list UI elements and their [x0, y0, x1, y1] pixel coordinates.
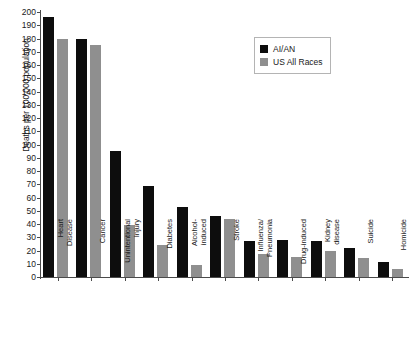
x-axis-tick-label-line: Unintentional: [123, 219, 132, 263]
y-axis-tick-label: 70: [0, 179, 40, 189]
x-axis-tick-label-line: Pneumonia: [266, 219, 275, 283]
x-axis-tick-label-line: Drug-induced: [299, 219, 308, 264]
y-axis-tick-label: 0: [0, 272, 40, 282]
x-axis-tick-label-line: disease: [333, 219, 342, 283]
x-axis-tick-mark: [292, 278, 293, 281]
bar: [244, 241, 255, 277]
y-axis-tick-label: 140: [0, 87, 40, 97]
bar: [76, 39, 87, 278]
x-axis-tick-label: Diabetes: [166, 219, 175, 283]
y-axis-tick-mark: [37, 39, 40, 40]
legend-entry: AI/AN: [260, 43, 323, 55]
y-axis-tick-mark: [37, 184, 40, 185]
x-axis-tick-label-line: Kidney: [323, 219, 332, 242]
y-axis-tick-label: 90: [0, 153, 40, 163]
plot-area: [41, 12, 409, 277]
x-axis-tick-label-line: Injury: [132, 219, 141, 283]
y-axis-tick-mark: [37, 12, 40, 13]
y-axis-tick-mark: [37, 224, 40, 225]
y-axis-tick-mark: [37, 92, 40, 93]
x-axis-tick-label: Drug-induced: [300, 219, 309, 283]
x-axis-tick-label-line: Suicide: [366, 219, 375, 244]
x-axis-tick-label: Suicide: [367, 219, 376, 283]
y-axis-tick-label: 150: [0, 73, 40, 83]
bar: [277, 240, 288, 277]
y-axis-tick-label: 10: [0, 259, 40, 269]
y-axis-tick-mark: [37, 277, 40, 278]
y-axis-tick-mark: [37, 65, 40, 66]
legend-entry-label: US All Races: [273, 58, 323, 67]
y-axis-tick-mark: [37, 118, 40, 119]
legend-color-swatch: [260, 58, 268, 66]
y-axis-tick-label: 160: [0, 60, 40, 70]
bar: [110, 151, 121, 277]
y-axis-tick-mark: [37, 171, 40, 172]
y-axis-tick-label: 120: [0, 113, 40, 123]
y-axis-tick-label: 170: [0, 47, 40, 57]
y-axis-tick-mark: [37, 131, 40, 132]
y-axis-tick-label: 100: [0, 140, 40, 150]
bar: [143, 186, 154, 277]
y-axis-tick-mark: [37, 145, 40, 146]
bar: [177, 207, 188, 277]
x-axis-tick-label-line: Stroke: [232, 219, 241, 241]
legend-entry-label: AI/AN: [273, 45, 295, 54]
bar: [43, 17, 54, 277]
x-axis-tick-label-line: Homicide: [399, 219, 408, 250]
x-axis-tick-label: Cancer: [99, 219, 108, 283]
x-axis-tick-label: Influenza/Pneumonia: [257, 219, 274, 283]
y-axis-tick-label: 60: [0, 193, 40, 203]
x-axis-tick-label: HeartDisease: [57, 219, 74, 283]
x-axis-tick-label: Homicide: [400, 219, 409, 283]
chart-legend: AI/ANUS All Races: [254, 37, 331, 74]
x-axis-tick-label-line: Disease: [65, 219, 74, 283]
y-axis-tick-mark: [37, 198, 40, 199]
x-axis-tick-mark: [158, 278, 159, 281]
y-axis-tick-mark: [37, 237, 40, 238]
y-axis-tick-mark: [37, 78, 40, 79]
y-axis-tick-label: 80: [0, 166, 40, 176]
y-axis-tick-mark: [37, 251, 40, 252]
y-axis-tick-mark: [37, 264, 40, 265]
x-axis-tick-label-line: Heart: [56, 219, 65, 237]
x-axis-tick-mark: [359, 278, 360, 281]
y-axis-tick-label: 50: [0, 206, 40, 216]
y-axis-tick-label: 30: [0, 232, 40, 242]
x-axis-tick-label: Alcohol-induced: [191, 219, 208, 283]
bar: [210, 216, 221, 277]
x-axis-tick-label-line: Alcohol-: [190, 219, 199, 246]
y-axis-tick-label: 190: [0, 20, 40, 30]
bar: [344, 248, 355, 277]
y-axis-tick-label: 180: [0, 34, 40, 44]
y-axis-tick-mark: [37, 105, 40, 106]
y-axis-tick-label: 40: [0, 219, 40, 229]
bar: [311, 241, 322, 277]
x-axis-tick-label: UnintentionalInjury: [124, 219, 141, 283]
legend-entry: US All Races: [260, 56, 323, 68]
y-axis-tick-label: 200: [0, 7, 40, 17]
y-axis-tick-mark: [37, 158, 40, 159]
x-axis-tick-mark: [392, 278, 393, 281]
x-axis-tick-label-line: induced: [199, 219, 208, 283]
x-axis-tick-label: Stroke: [233, 219, 242, 283]
y-axis-tick-label: 110: [0, 126, 40, 136]
bar: [378, 262, 389, 277]
y-axis-tick-label: 20: [0, 246, 40, 256]
x-axis-tick-mark: [91, 278, 92, 281]
x-axis-tick-label: Kidneydisease: [324, 219, 341, 283]
x-axis-tick-label-line: Diabetes: [165, 219, 174, 249]
y-axis-tick-mark: [37, 25, 40, 26]
y-axis-tick-mark: [37, 52, 40, 53]
y-axis-tick-label: 130: [0, 100, 40, 110]
bar-chart: Deaths per 100,000 population 2001901801…: [0, 0, 414, 340]
x-axis-tick-label-line: Cancer: [98, 219, 107, 243]
y-axis-tick-mark: [37, 211, 40, 212]
legend-color-swatch: [260, 45, 268, 53]
x-axis-tick-mark: [225, 278, 226, 281]
